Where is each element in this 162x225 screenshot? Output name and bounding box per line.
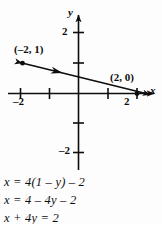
y-tick-label-2: 2	[62, 26, 68, 37]
graph-svg	[0, 0, 162, 176]
figure-page: y x 2 –2 –2 2 (–2, 1) (2, 0) x = 4(1 – y…	[0, 0, 162, 224]
point-marker-a	[20, 61, 25, 66]
y-axis-label: y	[68, 7, 73, 18]
point-marker-b	[135, 91, 140, 96]
x-axis-label: x	[150, 85, 156, 96]
x-tick-label-neg2: –2	[13, 96, 24, 107]
y-axis	[73, 15, 84, 170]
line-direction-marker	[50, 67, 63, 77]
point-label-neg2-1: (–2, 1)	[14, 44, 43, 55]
equation-line-2: x = 4 – 4y – 2	[4, 193, 162, 208]
point-label-2-0: (2, 0)	[110, 72, 134, 83]
equation-list: x = 4(1 – y) – 2 x = 4 – 4y – 2 x + 4y =…	[4, 175, 162, 224]
y-tick-label-neg2: –2	[59, 145, 70, 156]
equation-line-3: x + 4y = 2	[4, 211, 162, 225]
coordinate-graph: y x 2 –2 –2 2 (–2, 1) (2, 0)	[0, 0, 162, 176]
x-tick-label-2: 2	[124, 96, 130, 107]
equation-line-1: x = 4(1 – y) – 2	[4, 175, 162, 190]
